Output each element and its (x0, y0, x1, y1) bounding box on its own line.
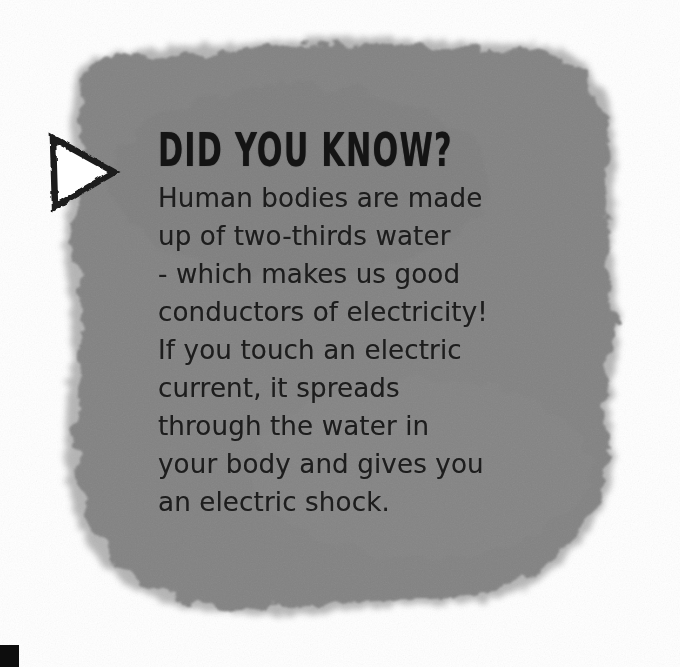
fact-line: Human bodies are made (158, 179, 546, 217)
fact-line: - which makes us good (158, 255, 546, 293)
page-title: DID YOU KNOW? (158, 124, 486, 176)
fact-line: through the water in (158, 407, 546, 445)
fact-line: If you touch an electric (158, 331, 546, 369)
page-corner-mark (0, 645, 19, 667)
fact-line: an electric shock. (158, 483, 546, 521)
fact-line: conductors of electricity! (158, 293, 546, 331)
fact-line: current, it spreads (158, 369, 546, 407)
fact-body-text: Human bodies are made up of two-thirds w… (158, 179, 558, 521)
fact-line: your body and gives you (158, 445, 546, 483)
fact-card-page: DID YOU KNOW? Human bodies are made up o… (0, 0, 680, 667)
triangle-right-icon (44, 131, 122, 213)
fact-line: up of two-thirds water (158, 217, 546, 255)
fact-text-block: DID YOU KNOW? Human bodies are made up o… (158, 124, 558, 521)
